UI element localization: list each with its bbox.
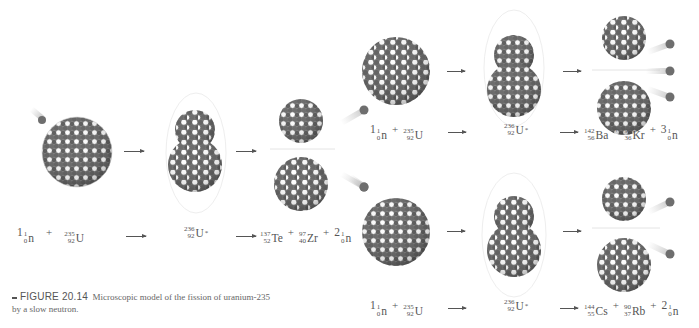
figure-caption: FIGURE 20.14 Microscopic model of the fi… (12, 291, 272, 315)
nuclide-uranium-236-excited: 23692 U* (184, 226, 208, 240)
neutron-icon (666, 67, 675, 76)
fission-figure: 1 10 n + 23592 U 23692 U* 13752 Te + 974… (0, 0, 699, 328)
arrow-icon (236, 236, 256, 237)
equation-products: 14256Ba + 9136Kr + 3 10n (584, 123, 678, 142)
nuclide-neutron: 10 n (341, 231, 351, 245)
nuclide-uranium-235: 23592 U (64, 231, 84, 245)
arrow-icon (126, 236, 146, 237)
neutron-icon (666, 198, 675, 207)
arrow-icon (124, 151, 144, 152)
arrow-icon (560, 132, 578, 133)
neutron-icon (360, 106, 369, 115)
equation-reactants: 1 10 n + 23592 U (17, 226, 84, 245)
equation-intermediate: 23692 U* (184, 226, 208, 240)
equation-reactants: 1 10n + 23592U (370, 299, 423, 318)
arrow-icon (563, 71, 581, 72)
neutron-icon (666, 93, 675, 102)
nuclide-krypton: 9136Kr (625, 128, 645, 142)
uranium-235-nucleus (42, 117, 112, 187)
uranium-236-excited-nucleus (166, 93, 226, 213)
arrow-icon (236, 151, 256, 152)
figure-number: FIGURE 20.14 (20, 291, 88, 302)
fission-fragments-te-zr (270, 99, 369, 211)
nuclide-cesium: 14455Cs (584, 304, 608, 318)
neutron-icon (666, 250, 675, 259)
reaction-te-zr-illustration (29, 93, 368, 213)
neutron-icon (38, 116, 46, 124)
reaction-ba-kr-illustration (362, 10, 675, 135)
equation-intermediate: 23692U* (504, 123, 528, 137)
equation-intermediate: 23692U* (504, 299, 528, 313)
arrow-icon (447, 231, 465, 232)
arrow-icon (448, 308, 466, 309)
arrow-icon (563, 231, 581, 232)
equation-reactants: 1 10n + 23592U (370, 123, 423, 142)
caption-bullet-icon (12, 297, 17, 299)
reaction-cs-rb-illustration (348, 173, 674, 297)
equation-products: 14455Cs + 9037Rb + 2 10n (584, 299, 679, 318)
arrow-icon (560, 308, 578, 309)
arrow-icon (447, 71, 465, 72)
arrow-icon (448, 132, 466, 133)
nuclide-zirconium: 9740 Zr (299, 231, 318, 245)
nuclide-neutron: 10 n (24, 231, 34, 245)
nuclide-barium: 14256Ba (584, 128, 608, 142)
neutron-icon (666, 40, 675, 49)
equation-products: 13752 Te + 9740 Zr + 2 10 n (260, 226, 351, 245)
nuclei-illustration (0, 0, 699, 328)
nuclide-rubidium: 9037Rb (624, 304, 645, 318)
nuclide-tellurium: 13752 Te (260, 231, 283, 245)
